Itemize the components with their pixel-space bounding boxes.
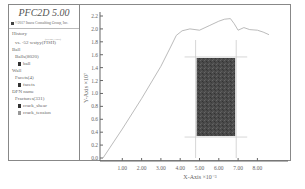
y-axis-label: Y-Axis ×10⁷ — [83, 73, 89, 103]
svg-text:0.6: 0.6 — [91, 116, 98, 122]
svg-text:6.00: 6.00 — [214, 165, 224, 171]
svg-text:1.00: 1.00 — [117, 165, 127, 171]
svg-text:0.8: 0.8 — [91, 103, 98, 109]
specimen-inset — [185, 40, 248, 158]
svg-text:2.00: 2.00 — [137, 165, 147, 171]
svg-text:1.0: 1.0 — [91, 90, 98, 96]
x-ticks: 1.002.003.004.005.006.007.008.00 — [117, 158, 262, 171]
svg-text:0.2: 0.2 — [91, 142, 98, 148]
svg-text:1.6: 1.6 — [91, 52, 98, 58]
svg-text:7.00: 7.00 — [233, 165, 243, 171]
svg-text:4.00: 4.00 — [175, 165, 185, 171]
svg-text:3.00: 3.00 — [156, 165, 166, 171]
svg-text:5.00: 5.00 — [195, 165, 205, 171]
x-axis-label: X-Axis ×10⁻³ — [183, 174, 217, 180]
svg-text:1.2: 1.2 — [91, 78, 98, 84]
svg-text:0.4: 0.4 — [91, 129, 98, 135]
y-ticks: 0.00.20.40.60.81.01.21.41.61.82.02.2 — [91, 13, 103, 161]
svg-text:8.00: 8.00 — [253, 165, 263, 171]
svg-text:1.4: 1.4 — [91, 65, 98, 71]
svg-text:1.8: 1.8 — [91, 39, 98, 45]
chart-canvas: 0.00.20.40.60.81.01.21.41.61.82.02.2 1.0… — [0, 0, 305, 189]
svg-text:2.2: 2.2 — [91, 13, 98, 19]
svg-text:0.0: 0.0 — [91, 155, 98, 161]
svg-text:2.0: 2.0 — [91, 26, 98, 32]
